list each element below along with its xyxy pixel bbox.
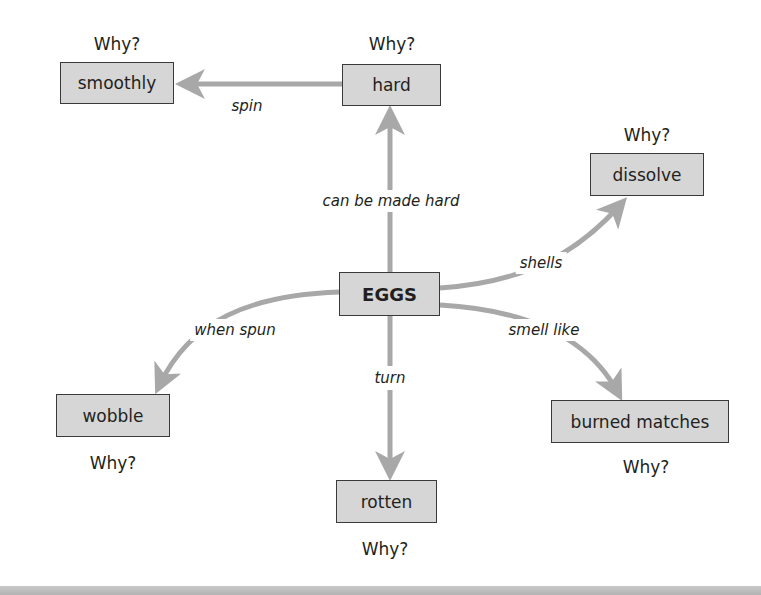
node-eggs-label: EGGS — [362, 284, 417, 305]
why-prompt-dissolve: Why? — [624, 125, 671, 145]
why-prompt-rotten: Why? — [362, 539, 409, 559]
link-label-can-be-made-hard: can be made hard — [323, 190, 460, 212]
link-label-when-spun: when spun — [190, 319, 280, 341]
why-prompt-hard: Why? — [369, 34, 416, 54]
why-prompt-wobble: Why? — [90, 453, 137, 473]
why-prompt-smoothly: Why? — [94, 34, 141, 54]
node-dissolve: dissolve — [590, 153, 704, 196]
node-wobble: wobble — [56, 394, 170, 437]
node-hard-label: hard — [372, 75, 411, 95]
link-label-smell-like: smell like — [504, 319, 583, 341]
why-prompt-burned-matches: Why? — [623, 457, 670, 477]
bottom-divider-bar — [0, 586, 761, 595]
link-label-turn: turn — [370, 366, 409, 390]
link-label-spin: spin — [231, 97, 262, 115]
node-wobble-label: wobble — [82, 406, 143, 426]
link-label-shells: shells — [516, 252, 567, 274]
node-burned-matches-label: burned matches — [571, 412, 710, 432]
node-smoothly: smoothly — [60, 62, 174, 104]
node-rotten: rotten — [336, 480, 437, 523]
node-rotten-label: rotten — [361, 492, 413, 512]
concept-map: can be made hard spin shells smell like … — [0, 0, 761, 595]
node-dissolve-label: dissolve — [613, 165, 682, 185]
node-burned-matches: burned matches — [551, 400, 729, 443]
node-hard: hard — [342, 64, 441, 106]
node-smoothly-label: smoothly — [78, 73, 156, 93]
arrow-eggs-to-dissolve — [440, 204, 621, 288]
node-eggs: EGGS — [339, 272, 440, 316]
